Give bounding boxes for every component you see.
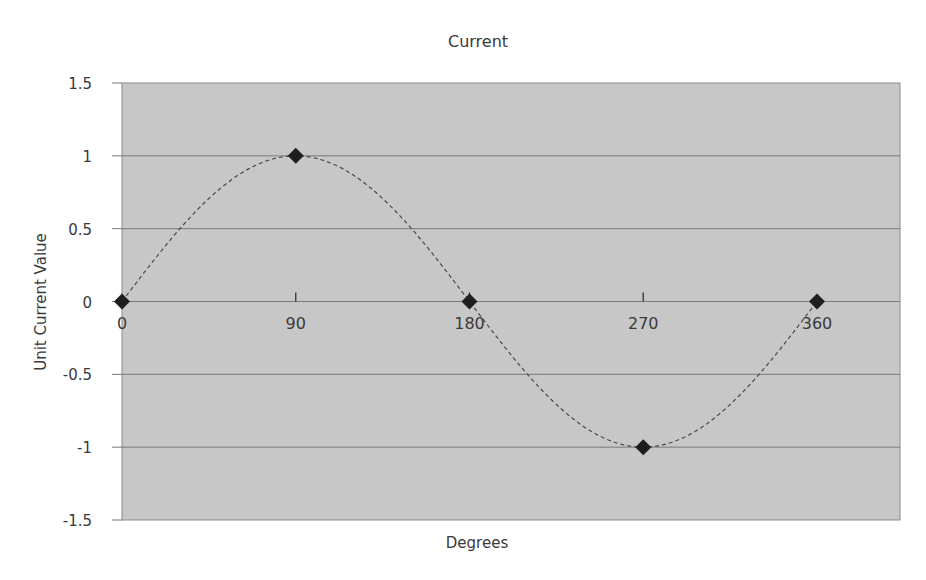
x-tick-label: 0 bbox=[117, 314, 127, 333]
y-tick-label: -0.5 bbox=[63, 366, 92, 384]
y-tick-label: 0 bbox=[82, 294, 92, 312]
y-tick-label: 1.5 bbox=[68, 75, 92, 93]
x-tick-label: 90 bbox=[286, 314, 306, 333]
y-tick-label: -1 bbox=[77, 439, 92, 457]
y-tick-label: 0.5 bbox=[68, 221, 92, 239]
y-axis-label: Unit Current Value bbox=[32, 233, 50, 371]
x-axis-label: Degrees bbox=[446, 534, 509, 552]
x-tick-label: 270 bbox=[628, 314, 659, 333]
y-tick-label: -1.5 bbox=[63, 512, 92, 530]
y-axis-ticks: 1.510.50-0.5-1-1.5 bbox=[63, 75, 122, 530]
chart-title: Current bbox=[448, 32, 508, 51]
current-chart: Current 1.510.50-0.5-1-1.5 090180270360 … bbox=[0, 0, 926, 580]
y-tick-label: 1 bbox=[82, 148, 92, 166]
